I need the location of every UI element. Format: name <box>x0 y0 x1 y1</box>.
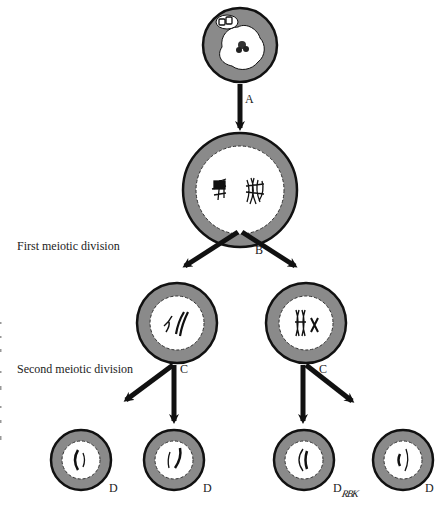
arrow-c-left-diag <box>126 365 173 400</box>
meiosis-i-cell <box>183 133 297 247</box>
left-edge-marks <box>0 322 2 440</box>
stage-label-first-division: First meiotic division <box>17 239 120 254</box>
label-d-2: D <box>203 481 212 496</box>
gamete-3 <box>274 430 334 490</box>
gamete-1 <box>51 430 111 490</box>
stage-label-second-division: Second meiotic division <box>17 362 133 377</box>
label-a: A <box>245 92 254 106</box>
label-c-right: C <box>319 362 327 377</box>
gamete-4 <box>373 430 433 490</box>
arrow-c-right-diag <box>306 365 352 401</box>
label-d-1: D <box>109 481 118 496</box>
primary-cell <box>203 8 277 82</box>
gamete-2 <box>144 430 204 490</box>
label-c-left: C <box>180 362 188 377</box>
meiosis-diagram: A <box>0 0 443 508</box>
label-d-3: D <box>333 481 342 496</box>
artist-signature: RBK <box>341 488 359 499</box>
label-d-4: D <box>425 481 434 496</box>
secondary-cell-right <box>266 283 346 363</box>
secondary-cell-left <box>137 283 217 363</box>
label-b: B <box>255 243 263 258</box>
